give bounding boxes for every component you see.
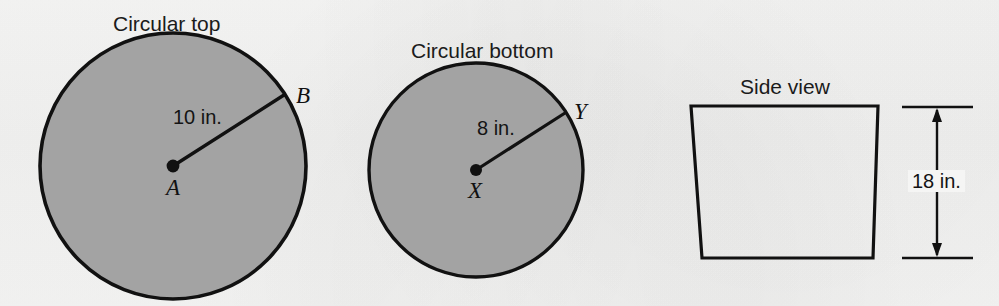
circular-bottom-figure — [369, 63, 583, 277]
arrowhead-up-icon — [932, 108, 942, 122]
center-dot-x — [470, 164, 482, 176]
circular-top-title: Circular top — [113, 13, 220, 34]
point-label-a: A — [166, 176, 180, 199]
circular-top-figure — [40, 33, 306, 299]
point-label-y: Y — [574, 100, 587, 123]
side-view-title: Side view — [740, 76, 830, 97]
arrowhead-down-icon — [932, 243, 942, 257]
trapezoid-shape — [691, 106, 878, 258]
figure-canvas: Circular top Circular bottom Side view A… — [0, 0, 999, 306]
radius-measure-bottom: 8 in. — [477, 118, 515, 138]
center-dot-a — [167, 160, 180, 173]
height-measure-side: 18 in. — [908, 170, 965, 192]
radius-measure-top: 10 in. — [173, 107, 222, 127]
side-view-figure — [691, 106, 878, 258]
point-label-b: B — [296, 84, 310, 107]
circular-bottom-title: Circular bottom — [411, 40, 553, 61]
point-label-x: X — [468, 179, 482, 202]
